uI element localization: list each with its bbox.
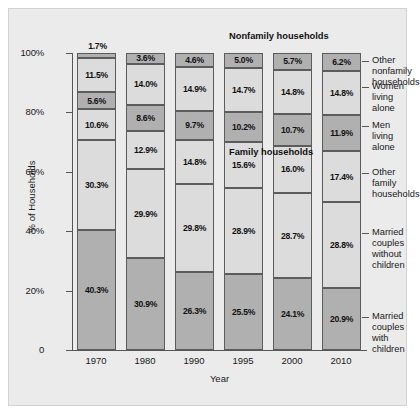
segment-value: 11.5% [85,70,108,80]
segment-married-with-children-2010: 20.9% [322,288,361,350]
segment-value: 40.3% [85,285,108,295]
segment-value: 16.0% [281,164,304,174]
y-tick-label-80: 80% [4,106,44,117]
segment-value: 10.6% [85,120,108,130]
segment-married-without-children-1980: 29.9% [126,169,165,258]
segment-married-without-children-1995: 28.9% [224,188,263,274]
legend-leader-men-alone [362,126,369,127]
legend-leader-married-without [362,233,369,234]
segment-value: 24.1% [281,309,304,319]
x-axis-title: Year [72,373,367,384]
segment-married-with-children-1990: 26.3% [175,272,214,350]
segment-value: 5.7% [283,56,302,66]
segment-other-nonfamily-1990: 4.6% [175,53,214,67]
bar-column-1995: 5.0% 14.7% 10.2% 15.6% 28.9% 25.5% [224,53,263,350]
y-tick-mark-60 [66,172,72,173]
x-axis-line [72,350,367,351]
y-tick-label-100: 100% [4,47,44,58]
segment-women-alone-1980: 14.0% [126,64,165,106]
y-tick-label-20: 20% [4,285,44,296]
segment-value: 4.6% [185,55,204,65]
segment-value: 12.9% [134,145,157,155]
segment-other-nonfamily-1980: 3.6% [126,53,165,64]
segment-value: 29.8% [183,223,206,233]
segment-men-alone-2010: 11.9% [322,115,361,150]
segment-other-family-1990: 14.8% [175,140,214,184]
x-tick-label-1990: 1990 [171,355,217,366]
segment-value: 28.9% [232,226,255,236]
y-tick-label-40: 40% [4,225,44,236]
segment-value: 30.3% [85,180,108,190]
segment-value: 17.4% [330,172,353,182]
segment-other-family-2010: 17.4% [322,151,361,203]
segment-other-nonfamily-2010: 6.2% [322,53,361,71]
legend-group-family: Family households [229,147,313,157]
segment-married-without-children-2000: 28.7% [273,193,312,278]
segment-value: 14.8% [330,88,353,98]
segment-women-alone-2010: 14.8% [322,71,361,115]
segment-value: 29.9% [134,209,157,219]
segment-value: 28.7% [281,231,304,241]
bar-column-1970: 1.7% 11.5% 5.6% 10.6% 30.3% 40.3% [77,53,116,350]
segment-men-alone-1995: 10.2% [224,112,263,142]
segment-other-family-1980: 12.9% [126,131,165,169]
segment-value: 5.0% [234,55,253,65]
chart-panel: 100% 80% 60% 40% 20% 0 % of Households 1… [8,8,407,406]
segment-women-alone-2000: 14.8% [273,70,312,114]
segment-other-family-1970: 10.6% [77,109,116,140]
x-tick-label-2000: 2000 [269,355,315,366]
segment-married-with-children-2000: 24.1% [273,278,312,350]
segment-value: 6.2% [332,57,351,67]
segment-other-nonfamily-2000: 5.7% [273,53,312,70]
legend-item-men-alone: Men living alone [372,120,406,153]
bar-column-1990: 4.6% 14.9% 9.7% 14.8% 29.8% 26.3% [175,53,214,350]
legend-group-nonfamily: Nonfamily households [229,31,329,41]
segment-value: 11.9% [330,128,353,138]
segment-women-alone-1990: 14.9% [175,67,214,111]
legend-item-married-with-children: Married couples with children [372,311,406,355]
segment-women-alone-1995: 14.7% [224,68,263,112]
segment-men-alone-1970: 5.6% [77,92,116,109]
segment-value: 28.8% [330,240,353,250]
legend-leader-married-with [362,317,369,318]
segment-other-nonfamily-1995: 5.0% [224,53,263,68]
segment-value: 10.7% [281,125,304,135]
legend-item-married-without-children: Married couples without children [372,227,406,271]
segment-value: 26.3% [183,306,206,316]
segment-value: 14.0% [134,79,157,89]
segment-married-with-children-1995: 25.5% [224,274,263,350]
segment-married-without-children-1990: 29.8% [175,184,214,273]
y-tick-label-0: 0 [4,344,44,355]
segment-value: 14.8% [281,87,304,97]
y-tick-mark-40 [66,231,72,232]
segment-women-alone-1970: 11.5% [77,58,116,92]
segment-value: 5.6% [87,96,106,106]
legend-item-women-alone: Women living alone [372,81,406,114]
segment-married-without-children-2010: 28.8% [322,202,361,288]
segment-value: 9.7% [185,120,204,130]
y-tick-mark-100 [66,53,72,54]
x-tick-label-1980: 1980 [122,355,168,366]
bar-column-2000: 5.7% 14.8% 10.7% 16.0% 28.7% 24.1% [273,53,312,350]
y-axis-line [72,53,73,350]
segment-value: 8.6% [136,113,155,123]
segment-value: 1.7% [78,41,117,51]
bar-column-1980: 3.6% 14.0% 8.6% 12.9% 29.9% 30.9% [126,53,165,350]
segment-value: 25.5% [232,307,255,317]
y-tick-mark-20 [66,291,72,292]
segment-value: 14.8% [183,157,206,167]
y-tick-mark-0 [66,350,72,351]
segment-men-alone-2000: 10.7% [273,114,312,146]
x-tick-label-1995: 1995 [220,355,266,366]
y-tick-label-60: 60% [4,166,44,177]
segment-men-alone-1980: 8.6% [126,105,165,131]
x-tick-label-1970: 1970 [73,355,119,366]
segment-men-alone-1990: 9.7% [175,111,214,140]
legend-leader-other-family [362,173,369,174]
segment-married-with-children-1970: 40.3% [77,230,116,350]
segment-value: 3.6% [136,53,155,63]
segment-value: 14.9% [183,84,206,94]
bar-column-2010: 6.2% 14.8% 11.9% 17.4% 28.8% 20.9% [322,53,361,350]
segment-value: 15.6% [232,160,255,170]
